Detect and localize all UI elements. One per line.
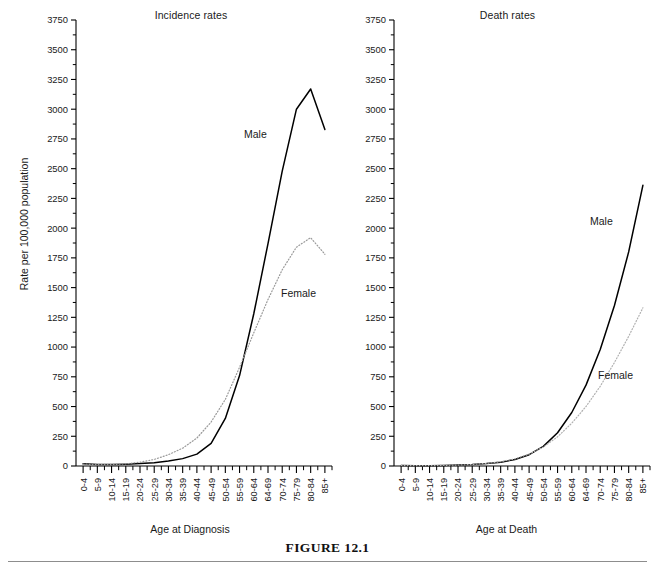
svg-text:250: 250 xyxy=(370,431,386,442)
svg-text:1500: 1500 xyxy=(365,282,386,293)
chart-title-incidence: Incidence rates xyxy=(0,9,340,21)
svg-text:64-69: 64-69 xyxy=(581,478,591,502)
svg-text:2250: 2250 xyxy=(47,193,68,204)
svg-text:50-54: 50-54 xyxy=(221,478,231,502)
svg-text:3000: 3000 xyxy=(365,104,386,115)
svg-text:3250: 3250 xyxy=(47,74,68,85)
svg-text:40-44: 40-44 xyxy=(510,478,520,502)
svg-text:500: 500 xyxy=(52,401,68,412)
svg-text:1250: 1250 xyxy=(365,312,386,323)
series-label-female-incidence: Female xyxy=(281,287,316,299)
svg-text:2250: 2250 xyxy=(365,193,386,204)
chart-panel-death: Death rates 0250500750100012501500175020… xyxy=(330,0,655,530)
svg-text:45-49: 45-49 xyxy=(207,478,217,502)
svg-text:20-24: 20-24 xyxy=(453,478,463,502)
svg-text:5-9: 5-9 xyxy=(411,478,421,491)
svg-text:15-19: 15-19 xyxy=(439,478,449,502)
svg-text:35-39: 35-39 xyxy=(496,478,506,502)
svg-text:15-19: 15-19 xyxy=(121,478,131,502)
svg-text:45-49: 45-49 xyxy=(525,478,535,502)
svg-text:3250: 3250 xyxy=(365,74,386,85)
y-axis-title-incidence: Rate per 100,000 population xyxy=(18,124,30,324)
svg-text:0: 0 xyxy=(63,460,68,471)
x-axis-title-death: Age at Death xyxy=(330,523,655,535)
svg-text:85+: 85+ xyxy=(638,478,648,494)
svg-text:1750: 1750 xyxy=(365,252,386,263)
svg-text:64-69: 64-69 xyxy=(263,478,273,502)
chart-title-death: Death rates xyxy=(330,9,655,21)
figure-bottom-rule xyxy=(8,561,647,562)
svg-text:50-54: 50-54 xyxy=(539,478,549,502)
series-label-male-death: Male xyxy=(590,215,613,227)
svg-text:10-14: 10-14 xyxy=(425,478,435,502)
series-label-male-incidence: Male xyxy=(244,128,267,140)
plot-area-death: 0250500750100012501500175020002250250027… xyxy=(330,0,655,530)
svg-text:30-34: 30-34 xyxy=(164,478,174,502)
svg-text:85+: 85+ xyxy=(320,478,330,494)
svg-text:25-29: 25-29 xyxy=(150,478,160,502)
svg-text:2750: 2750 xyxy=(365,133,386,144)
svg-text:60-64: 60-64 xyxy=(249,478,259,502)
svg-text:60-64: 60-64 xyxy=(567,478,577,502)
svg-text:2000: 2000 xyxy=(365,223,386,234)
svg-text:2750: 2750 xyxy=(47,133,68,144)
svg-text:80-84: 80-84 xyxy=(624,478,634,502)
svg-text:500: 500 xyxy=(370,401,386,412)
x-axis-title-incidence: Age at Diagnosis xyxy=(0,523,340,535)
figure-root: Incidence rates 025050075010001250150017… xyxy=(0,0,655,568)
svg-text:75-79: 75-79 xyxy=(610,478,620,502)
svg-text:35-39: 35-39 xyxy=(178,478,188,502)
svg-text:750: 750 xyxy=(370,371,386,382)
svg-text:3500: 3500 xyxy=(47,44,68,55)
svg-text:40-44: 40-44 xyxy=(192,478,202,502)
svg-text:30-34: 30-34 xyxy=(482,478,492,502)
svg-text:75-79: 75-79 xyxy=(292,478,302,502)
svg-text:55-59: 55-59 xyxy=(235,478,245,502)
series-label-female-death: Female xyxy=(598,369,633,381)
svg-text:1250: 1250 xyxy=(47,312,68,323)
svg-text:25-29: 25-29 xyxy=(468,478,478,502)
svg-text:1000: 1000 xyxy=(47,341,68,352)
figure-caption: FIGURE 12.1 xyxy=(0,540,655,556)
svg-text:3500: 3500 xyxy=(365,44,386,55)
svg-text:70-74: 70-74 xyxy=(278,478,288,502)
svg-text:0: 0 xyxy=(381,460,386,471)
svg-text:2500: 2500 xyxy=(47,163,68,174)
svg-text:250: 250 xyxy=(52,431,68,442)
plot-area-incidence: 0250500750100012501500175020002250250027… xyxy=(0,0,340,530)
svg-text:3000: 3000 xyxy=(47,104,68,115)
svg-text:0-4: 0-4 xyxy=(397,478,407,491)
svg-text:1750: 1750 xyxy=(47,252,68,263)
svg-text:1500: 1500 xyxy=(47,282,68,293)
svg-text:2500: 2500 xyxy=(365,163,386,174)
svg-text:20-24: 20-24 xyxy=(135,478,145,502)
svg-text:750: 750 xyxy=(52,371,68,382)
svg-text:80-84: 80-84 xyxy=(306,478,316,502)
svg-text:10-14: 10-14 xyxy=(107,478,117,502)
svg-text:70-74: 70-74 xyxy=(596,478,606,502)
chart-panel-incidence: Incidence rates 025050075010001250150017… xyxy=(0,0,340,530)
svg-text:0-4: 0-4 xyxy=(79,478,89,491)
svg-text:5-9: 5-9 xyxy=(93,478,103,491)
svg-text:1000: 1000 xyxy=(365,341,386,352)
svg-text:55-59: 55-59 xyxy=(553,478,563,502)
svg-text:2000: 2000 xyxy=(47,223,68,234)
